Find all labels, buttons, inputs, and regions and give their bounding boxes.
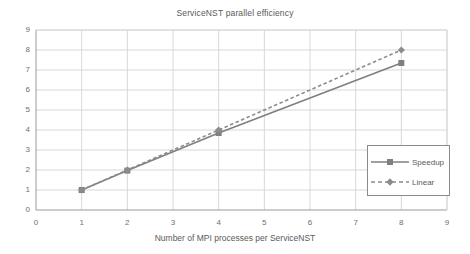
x-tick-label: 5 bbox=[254, 218, 274, 227]
x-tick-label: 7 bbox=[346, 218, 366, 227]
y-tick-label: 4 bbox=[12, 125, 30, 134]
legend-swatch-linear-icon bbox=[368, 175, 412, 189]
x-tick-label: 8 bbox=[391, 218, 411, 227]
x-tick-label: 2 bbox=[117, 218, 137, 227]
y-tick-label: 0 bbox=[12, 205, 30, 214]
legend-item-speedup: Speedup bbox=[368, 154, 451, 170]
y-tick-label: 1 bbox=[12, 185, 30, 194]
legend-label-linear: Linear bbox=[412, 178, 434, 187]
x-axis-label: Number of MPI processes per ServiceNST bbox=[0, 233, 470, 243]
legend-swatch-speedup-icon bbox=[368, 155, 412, 169]
y-tick-label: 2 bbox=[12, 165, 30, 174]
y-tick-label: 3 bbox=[12, 145, 30, 154]
y-tick-label: 7 bbox=[12, 65, 30, 74]
plot-canvas bbox=[0, 0, 470, 254]
y-tick-label: 5 bbox=[12, 105, 30, 114]
y-tick-label: 6 bbox=[12, 85, 30, 94]
legend-label-speedup: Speedup bbox=[412, 158, 444, 167]
y-tick-label: 8 bbox=[12, 45, 30, 54]
y-tick-label: 9 bbox=[12, 25, 30, 34]
x-tick-label: 6 bbox=[300, 218, 320, 227]
x-tick-label: 4 bbox=[209, 218, 229, 227]
legend-item-linear: Linear bbox=[368, 174, 451, 190]
legend: Speedup Linear bbox=[367, 145, 450, 196]
x-tick-label: 9 bbox=[437, 218, 457, 227]
chart-container: ServiceNST parallel efficiency 012345678… bbox=[0, 0, 470, 254]
x-tick-label: 1 bbox=[72, 218, 92, 227]
x-tick-label: 3 bbox=[163, 218, 183, 227]
x-tick-label: 0 bbox=[26, 218, 46, 227]
